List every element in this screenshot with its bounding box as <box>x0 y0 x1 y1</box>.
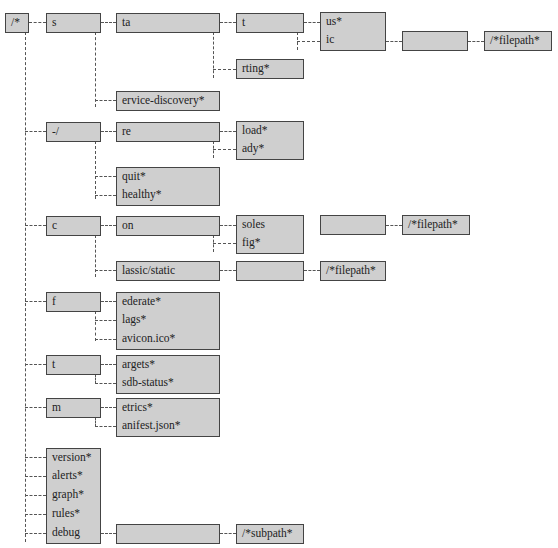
edge-root-version <box>25 457 46 458</box>
edge-c-on <box>101 225 116 226</box>
node-version: version* <box>46 448 101 468</box>
edge-ta-trunk <box>213 32 214 78</box>
node-static-filepath: /*filepath* <box>320 261 386 281</box>
node-ic: ic <box>320 31 386 51</box>
edge-dash-re <box>101 131 116 132</box>
node-debug: debug <box>46 524 101 544</box>
node-anifest: anifest.json* <box>116 417 220 437</box>
node-argets: argets* <box>116 355 220 375</box>
edge-ta-t <box>220 22 236 23</box>
edge-c-lassicstatic <box>95 270 116 271</box>
node-graph: graph* <box>46 486 101 506</box>
edge-s-trunk <box>95 32 96 107</box>
edge-root-alerts <box>25 476 46 477</box>
node-us: us* <box>320 12 386 32</box>
edge-t-ic <box>297 41 320 42</box>
node-ady: ady* <box>236 140 304 160</box>
edge-s-ta <box>101 22 116 23</box>
node-dash: -/ <box>46 122 101 142</box>
edge-t2-argets <box>101 364 116 365</box>
node-soles-blank <box>320 215 386 235</box>
node-f: f <box>46 292 101 312</box>
edge-root-rules <box>25 514 46 515</box>
node-load: load* <box>236 121 304 141</box>
node-ic-blank <box>402 31 468 51</box>
node-lags: lags* <box>116 311 220 331</box>
node-soles-filepath: /*filepath* <box>402 215 470 235</box>
edge-s-servicediscovery <box>95 100 116 101</box>
edge-m-etrics <box>101 407 116 408</box>
node-rules: rules* <box>46 505 101 525</box>
edge-ta-rting <box>213 69 236 70</box>
node-on: on <box>116 216 220 236</box>
node-ic-filepath: /*filepath* <box>484 31 552 51</box>
edge-icblank-filepath <box>468 41 484 42</box>
edge-f-avicon <box>95 339 116 340</box>
node-debug-blank <box>116 524 220 544</box>
node-t2: t <box>46 355 101 375</box>
edge-root-m <box>25 407 46 408</box>
node-sdb-status: sdb-status* <box>116 374 220 394</box>
edge-t2-sdbstatus <box>95 383 116 384</box>
edge-static-blank <box>220 270 236 271</box>
node-service-discovery: ervice-discovery* <box>116 91 220 111</box>
edge-staticblank-filepath <box>304 270 320 271</box>
node-s: s <box>46 13 101 33</box>
edge-dash-quit <box>95 176 116 177</box>
node-t: t <box>236 13 304 33</box>
node-root: /* <box>5 13 29 33</box>
edge-root-trunk <box>25 32 26 542</box>
edge-m-anifest <box>95 426 116 427</box>
edge-on-fig <box>213 243 236 244</box>
node-re: re <box>116 122 220 142</box>
edge-root-dash <box>25 131 46 132</box>
node-ta: ta <box>116 13 220 33</box>
node-subpath: /*subpath* <box>236 524 304 544</box>
edge-dash-healthy <box>95 195 116 196</box>
edge-re-load <box>220 131 236 132</box>
node-rting: rting* <box>236 59 304 79</box>
node-static-blank <box>236 261 304 281</box>
edge-t-us <box>304 22 320 23</box>
node-healthy: healthy* <box>116 186 220 206</box>
edge-root-graph <box>25 495 46 496</box>
edge-f-trunk <box>95 311 96 341</box>
node-quit: quit* <box>116 167 220 187</box>
node-soles: soles <box>236 215 304 235</box>
node-etrics: etrics* <box>116 398 220 418</box>
node-alerts: alerts* <box>46 467 101 487</box>
edge-f-lags <box>95 320 116 321</box>
edge-debug-blank <box>101 533 116 534</box>
node-ederate: ederate* <box>116 292 220 312</box>
edge-root-c <box>25 225 46 226</box>
node-fig: fig* <box>236 234 304 254</box>
node-lassic-static: lassic/static <box>116 261 220 281</box>
edge-f-ederate <box>101 301 116 302</box>
edge-solesblank-filepath <box>386 225 402 226</box>
edge-on-soles <box>220 225 236 226</box>
node-c: c <box>46 216 101 236</box>
edge-root-s <box>29 22 46 23</box>
edge-re-ady <box>213 149 236 150</box>
edge-debugblank-subpath <box>220 533 236 534</box>
node-m: m <box>46 398 101 418</box>
node-avicon: avicon.ico* <box>116 330 220 350</box>
edge-root-f <box>25 301 46 302</box>
edge-dash-trunk <box>95 141 96 199</box>
edge-ic-blank <box>386 41 402 42</box>
edge-root-t2 <box>25 364 46 365</box>
edge-root-debug <box>25 533 46 534</box>
